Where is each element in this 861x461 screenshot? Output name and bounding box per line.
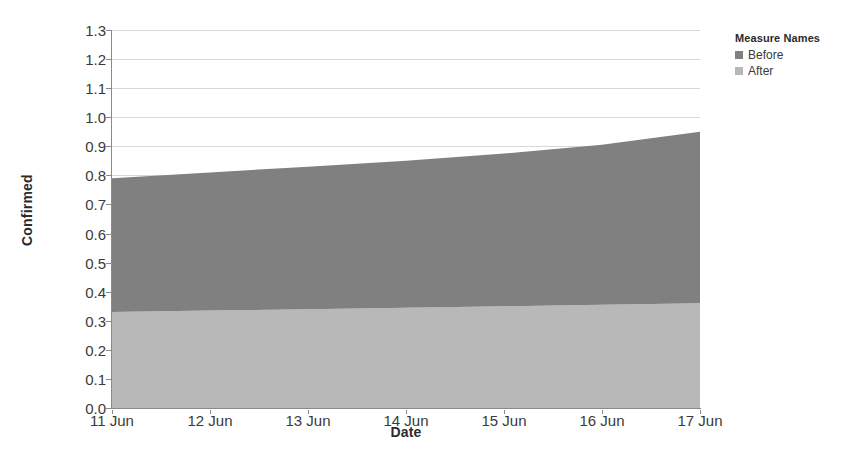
y-axis-tick-label: 1.1 [62, 80, 106, 97]
y-axis-tick-label: 0.3 [62, 312, 106, 329]
y-axis-title: Confirmed [14, 130, 40, 290]
area-series-after [112, 303, 700, 408]
y-axis-tick-label: 0.4 [62, 283, 106, 300]
x-axis-line [111, 408, 701, 409]
x-axis-tick-mark [602, 410, 603, 414]
y-axis-tick-label: 1.3 [62, 22, 106, 39]
area-chart: Confirmed 0.00.10.20.30.40.50.60.70.80.9… [0, 0, 861, 461]
y-axis-tick-label: 1.2 [62, 51, 106, 68]
y-axis-tick-label: 0.6 [62, 225, 106, 242]
legend-items: BeforeAfter [735, 48, 855, 78]
legend-item-after[interactable]: After [735, 64, 855, 78]
x-axis-tick-mark [308, 410, 309, 414]
x-axis-tick-mark [504, 410, 505, 414]
y-axis-tick-label: 0.5 [62, 254, 106, 271]
legend-title: Measure Names [735, 32, 855, 44]
y-axis-tick-label: 0.7 [62, 196, 106, 213]
y-axis-tick-label: 0.2 [62, 341, 106, 358]
plot-area [112, 30, 700, 408]
legend-swatch-icon [735, 51, 743, 59]
y-axis-tick-label: 0.8 [62, 167, 106, 184]
legend-item-label: Before [748, 48, 783, 62]
legend: Measure Names BeforeAfter [735, 32, 855, 80]
series-group [112, 30, 700, 408]
legend-item-before[interactable]: Before [735, 48, 855, 62]
y-axis-tick-label: 0.9 [62, 138, 106, 155]
legend-item-label: After [748, 64, 773, 78]
x-axis-tick-mark [406, 410, 407, 414]
x-axis-title: Date [112, 424, 700, 440]
y-axis-tick-label: 1.0 [62, 109, 106, 126]
y-axis-tick-label: 0.1 [62, 370, 106, 387]
y-axis-tick-labels: 0.00.10.20.30.40.50.60.70.80.91.01.11.21… [58, 30, 106, 408]
x-axis-tick-mark [112, 410, 113, 414]
area-series-before [112, 132, 700, 312]
x-axis-tick-mark [210, 410, 211, 414]
legend-swatch-icon [735, 67, 743, 75]
x-axis-tick-mark [700, 410, 701, 414]
